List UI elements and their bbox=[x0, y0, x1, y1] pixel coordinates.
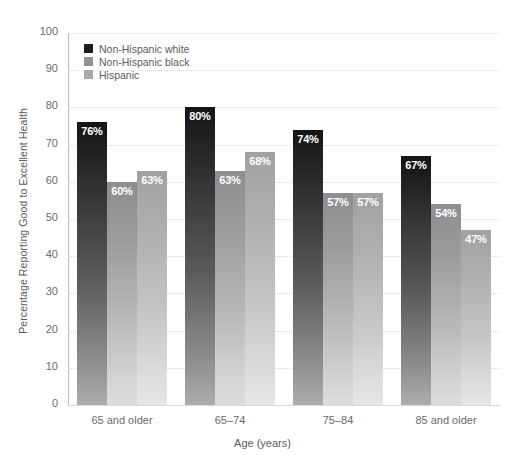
bar: 68% bbox=[245, 152, 275, 405]
y-axis-tick-label: 70 bbox=[0, 137, 58, 149]
bar: 54% bbox=[431, 204, 461, 405]
bar-fill bbox=[461, 230, 491, 405]
bar-group: 80%63%68% bbox=[185, 33, 275, 405]
bar-value-label: 74% bbox=[293, 133, 323, 145]
bar-value-label: 47% bbox=[461, 233, 491, 245]
bar-fill bbox=[293, 130, 323, 405]
bar: 60% bbox=[107, 182, 137, 405]
bar: 57% bbox=[323, 193, 353, 405]
bar-value-label: 68% bbox=[245, 155, 275, 167]
bar-fill bbox=[107, 182, 137, 405]
bar: 47% bbox=[461, 230, 491, 405]
bar-chart: Percentage Reporting Good to Excellent H… bbox=[0, 0, 525, 471]
y-axis-tick-label: 30 bbox=[0, 285, 58, 297]
bar-fill bbox=[77, 122, 107, 405]
legend-item: Non-Hispanic white bbox=[84, 43, 189, 55]
bar-value-label: 57% bbox=[323, 196, 353, 208]
bar: 67% bbox=[401, 156, 431, 405]
y-axis-tick-label: 20 bbox=[0, 323, 58, 335]
legend-swatch-icon bbox=[84, 44, 93, 53]
bar: 80% bbox=[185, 107, 215, 405]
y-axis-tick-label: 100 bbox=[0, 25, 58, 37]
x-axis-category-label: 85 and older bbox=[371, 414, 521, 426]
y-axis-tick-label: 60 bbox=[0, 174, 58, 186]
bar-fill bbox=[353, 193, 383, 405]
legend-swatch-icon bbox=[84, 57, 93, 66]
bar-fill bbox=[431, 204, 461, 405]
bar-fill bbox=[401, 156, 431, 405]
bar: 63% bbox=[215, 171, 245, 405]
bar: 63% bbox=[137, 171, 167, 405]
bar: 74% bbox=[293, 130, 323, 405]
bar-value-label: 57% bbox=[353, 196, 383, 208]
bar-fill bbox=[215, 171, 245, 405]
bar-group: 74%57%57% bbox=[293, 33, 383, 405]
y-axis-tick-label: 90 bbox=[0, 62, 58, 74]
legend-item: Non-Hispanic black bbox=[84, 56, 189, 68]
bar-value-label: 63% bbox=[137, 174, 167, 186]
bar-group: 67%54%47% bbox=[401, 33, 491, 405]
bar-value-label: 63% bbox=[215, 174, 245, 186]
bar: 57% bbox=[353, 193, 383, 405]
bar-value-label: 54% bbox=[431, 207, 461, 219]
legend-swatch-icon bbox=[84, 70, 93, 79]
bar-value-label: 60% bbox=[107, 185, 137, 197]
y-axis-tick-label: 40 bbox=[0, 248, 58, 260]
y-axis-tick-label: 0 bbox=[0, 397, 58, 409]
bar-fill bbox=[323, 193, 353, 405]
bar-fill bbox=[245, 152, 275, 405]
bar-value-label: 80% bbox=[185, 110, 215, 122]
bar-fill bbox=[137, 171, 167, 405]
legend-label: Non-Hispanic white bbox=[99, 43, 189, 55]
x-axis-title: Age (years) bbox=[0, 437, 525, 449]
bar-group: 76%60%63% bbox=[77, 33, 167, 405]
y-axis-tick-label: 10 bbox=[0, 360, 58, 372]
legend-label: Hispanic bbox=[99, 69, 139, 81]
bar: 76% bbox=[77, 122, 107, 405]
gridline bbox=[68, 405, 500, 406]
plot-area: 76%60%63%80%63%68%74%57%57%67%54%47% bbox=[68, 33, 500, 405]
bar-fill bbox=[185, 107, 215, 405]
legend-label: Non-Hispanic black bbox=[99, 56, 189, 68]
bar-value-label: 76% bbox=[77, 125, 107, 137]
legend: Non-Hispanic whiteNon-Hispanic blackHisp… bbox=[84, 43, 189, 82]
legend-item: Hispanic bbox=[84, 69, 189, 81]
y-axis-tick-label: 50 bbox=[0, 211, 58, 223]
y-axis-tick-label: 80 bbox=[0, 99, 58, 111]
bar-value-label: 67% bbox=[401, 159, 431, 171]
